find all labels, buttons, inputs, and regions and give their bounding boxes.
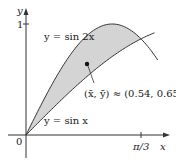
y-tick-label: 1 <box>17 19 23 30</box>
centroid-point <box>85 62 89 66</box>
curve-sinx-label: y = sin x <box>43 115 88 126</box>
centroid-label: (x̄, ȳ) ≈ (0.54, 0.65) <box>84 88 176 99</box>
x-axis-label: x <box>160 141 166 152</box>
origin-label: 0 <box>16 136 22 147</box>
y-axis-arrow-icon <box>24 8 29 15</box>
x-tick-label: π/3 <box>132 141 149 152</box>
centroid-diagram: y 1 0 π/3 x y = sin 2x y = sin x (x̄, ȳ)… <box>0 0 176 163</box>
curve-sin2x-label: y = sin 2x <box>43 31 95 42</box>
x-axis-arrow-icon <box>163 133 170 138</box>
y-axis-label: y <box>16 5 23 16</box>
